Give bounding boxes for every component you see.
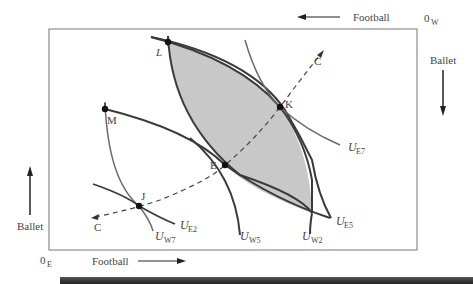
arrow-head-east-ballet: [27, 166, 33, 176]
label-east-football: Football: [92, 255, 129, 267]
point-j: [136, 203, 142, 209]
svg-text:E: E: [47, 260, 52, 269]
point-l: [165, 39, 171, 45]
label-west-ballet: Ballet: [430, 54, 456, 66]
label-l: L: [155, 46, 162, 58]
label-ue2: U E2: [180, 218, 197, 234]
label-west-football: Football: [353, 11, 390, 23]
arrow-head-west-football: [297, 14, 306, 20]
label-ue7: U E7: [348, 140, 365, 156]
svg-text:W7: W7: [164, 236, 176, 245]
svg-text:W2: W2: [311, 236, 323, 245]
point-e: [222, 162, 228, 168]
label-uw2: U W2: [302, 229, 323, 245]
label-origin-west: 0 W: [424, 12, 439, 27]
page-edge-bar: [60, 277, 473, 284]
label-j: J: [141, 190, 146, 202]
contract-curve-arrow-bottom: [91, 214, 99, 220]
label-east-ballet: Ballet: [17, 220, 43, 232]
label-m: M: [107, 114, 117, 126]
point-k: [277, 104, 283, 110]
label-uw5: U W5: [240, 229, 261, 245]
svg-text:E5: E5: [344, 221, 353, 230]
svg-text:E7: E7: [356, 147, 365, 156]
label-k: K: [285, 98, 293, 110]
label-origin-east: 0 E: [40, 254, 52, 269]
edgeworth-box-diagram: L K E M J C C U E7 U E5 U E2 U W7 U W5 U…: [0, 0, 473, 284]
svg-text:E2: E2: [188, 225, 197, 234]
label-ue5: U E5: [336, 214, 353, 230]
label-e: E: [210, 159, 217, 171]
svg-text:0: 0: [424, 12, 430, 24]
curve-ue2: [93, 184, 175, 224]
label-c-top: C: [314, 55, 321, 67]
label-c-bottom: C: [94, 221, 101, 233]
svg-text:W5: W5: [249, 236, 261, 245]
point-m: [102, 106, 108, 112]
label-uw7: U W7: [155, 229, 176, 245]
curve-ue5-lower: [76, 19, 152, 38]
arrow-head-east-football: [177, 258, 186, 264]
svg-text:0: 0: [40, 254, 46, 266]
svg-text:W: W: [431, 18, 439, 27]
arrow-head-west-ballet: [440, 106, 446, 116]
